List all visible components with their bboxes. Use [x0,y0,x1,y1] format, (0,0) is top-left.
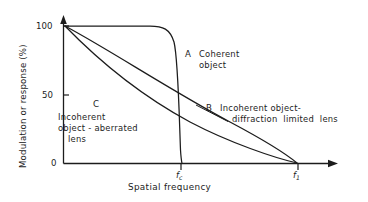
y-axis-arrow-icon [60,15,67,24]
curve-label-b-line2: diffraction limited lens [232,114,338,125]
curve-label-a-line2: object [199,60,226,71]
curve-label-b-line1: Incoherent object- [220,103,301,114]
y-tick-label-50: 50 [42,90,53,100]
y-axis-title: Modulation or response (%) [18,44,28,168]
x-tick-f1-sub: 1 [296,174,300,181]
x-axis-title: Spatial frequency [128,182,211,192]
y-tick-label-0: 0 [51,158,56,168]
curve-label-b-id: B [206,103,212,113]
chart-canvas [0,0,368,202]
curve-label-a-id: A [185,49,191,59]
x-axis-arrow-icon [328,160,338,167]
curve-label-a-line1: Coherent [199,49,239,60]
x-tick-label-f1: f1 [293,170,300,181]
mtf-chart-figure: 100 50 0 Modulation or response (%) Spat… [0,0,368,202]
y-tick-label-100: 100 [36,21,52,31]
x-tick-fc-sub: c [179,174,182,181]
curve-label-c-line3: lens [68,134,86,145]
curve-label-c-line1: Incoherent [58,112,105,123]
x-tick-label-fc: fc [176,170,182,181]
curve-label-c-line2: object - aberrated [58,123,138,134]
curve-b [65,26,297,163]
curve-label-c-id: C [93,99,99,109]
